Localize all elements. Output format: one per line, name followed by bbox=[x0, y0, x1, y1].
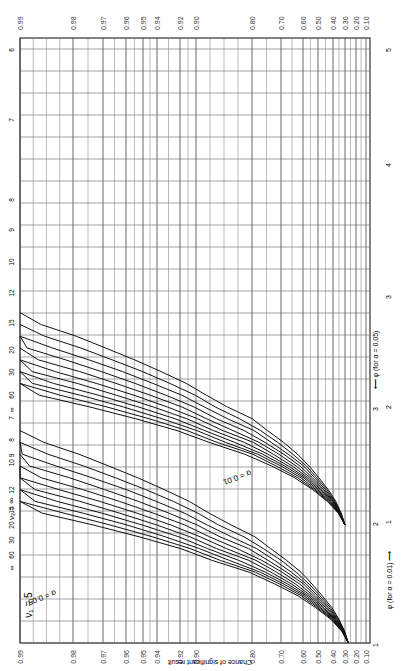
svg-text:0.10: 0.10 bbox=[363, 16, 370, 30]
curve-a001-nu2-15 bbox=[20, 478, 348, 643]
svg-text:4: 4 bbox=[385, 163, 392, 167]
svg-text:0.10: 0.10 bbox=[363, 650, 370, 664]
svg-text:0.60: 0.60 bbox=[300, 16, 307, 30]
svg-text:8: 8 bbox=[8, 198, 15, 202]
svg-text:6: 6 bbox=[8, 48, 15, 52]
svg-text:15: 15 bbox=[8, 506, 15, 514]
svg-text:0.99: 0.99 bbox=[17, 650, 24, 664]
alpha-001-label: α = 0.01 bbox=[221, 468, 252, 487]
svg-text:0.20: 0.20 bbox=[353, 16, 360, 30]
svg-text:0.40: 0.40 bbox=[330, 16, 337, 30]
curve-a001-nu2-7 bbox=[20, 442, 348, 643]
svg-text:20: 20 bbox=[8, 521, 15, 529]
svg-text:2: 2 bbox=[372, 522, 379, 526]
svg-text:0.90: 0.90 bbox=[193, 16, 200, 30]
svg-text:0.20: 0.20 bbox=[353, 650, 360, 664]
svg-text:0.92: 0.92 bbox=[177, 16, 184, 30]
svg-text:8: 8 bbox=[8, 438, 15, 442]
curve-a005-nu2-12 bbox=[20, 360, 345, 525]
svg-text:7: 7 bbox=[8, 118, 15, 122]
svg-text:12: 12 bbox=[8, 486, 15, 494]
curve-a001-nu2-60 bbox=[20, 501, 348, 643]
svg-text:0.97: 0.97 bbox=[100, 16, 107, 30]
curve-a005-nu2-8 bbox=[20, 336, 345, 525]
phi-alpha-001-label: φ (for α = 0.01) ⟶ bbox=[386, 551, 394, 610]
svg-text:0.70: 0.70 bbox=[278, 650, 285, 664]
chart-grid bbox=[20, 38, 370, 643]
svg-text:60: 60 bbox=[8, 551, 15, 559]
curve-a005-nu2-7 bbox=[20, 324, 345, 525]
svg-text:30: 30 bbox=[8, 368, 15, 376]
phi-alpha-005-label: ⟵ φ (for α = 0.05) bbox=[372, 331, 380, 390]
svg-text:0.80: 0.80 bbox=[249, 16, 256, 30]
svg-text:3: 3 bbox=[372, 407, 379, 411]
svg-text:0.96: 0.96 bbox=[123, 16, 130, 30]
svg-text:0.99: 0.99 bbox=[17, 16, 24, 30]
svg-text:5: 5 bbox=[385, 48, 392, 52]
svg-text:0.70: 0.70 bbox=[278, 16, 285, 30]
curve-a005-nu2-30 bbox=[20, 372, 345, 525]
svg-text:∞: ∞ bbox=[8, 565, 15, 570]
curve-a005-nu2-60 bbox=[20, 383, 345, 525]
svg-text:10: 10 bbox=[8, 258, 15, 266]
svg-text:0.98: 0.98 bbox=[70, 650, 77, 664]
svg-text:20: 20 bbox=[8, 346, 15, 354]
svg-text:0.94: 0.94 bbox=[154, 16, 161, 30]
svg-text:0.98: 0.98 bbox=[70, 16, 77, 30]
svg-text:9: 9 bbox=[8, 228, 15, 232]
svg-text:0.95: 0.95 bbox=[140, 650, 147, 664]
svg-text:1: 1 bbox=[385, 520, 392, 524]
curve-a005-nu2-∞ bbox=[20, 383, 345, 525]
chart-labels: 0.990.990.980.980.970.970.960.960.950.95… bbox=[7, 16, 394, 666]
svg-text:60: 60 bbox=[8, 391, 15, 399]
plot-frame bbox=[20, 38, 370, 643]
curve-a005-nu2-20 bbox=[20, 372, 345, 525]
curve-a001-nu2-12 bbox=[20, 466, 348, 643]
svg-text:1: 1 bbox=[372, 643, 379, 647]
svg-text:10 9: 10 9 bbox=[8, 453, 15, 466]
svg-text:0.96: 0.96 bbox=[123, 650, 130, 664]
svg-text:0.30: 0.30 bbox=[342, 650, 349, 664]
svg-text:0.94: 0.94 bbox=[154, 650, 161, 664]
curve-a005-nu2-9 bbox=[20, 336, 345, 525]
svg-text:12: 12 bbox=[8, 289, 15, 297]
svg-text:0.40: 0.40 bbox=[330, 650, 337, 664]
curve-a001-nu2-8 bbox=[20, 442, 348, 643]
svg-text:3: 3 bbox=[385, 295, 392, 299]
svg-text:7: 7 bbox=[8, 416, 15, 420]
svg-text:30: 30 bbox=[8, 536, 15, 544]
svg-text:0.30: 0.30 bbox=[342, 16, 349, 30]
alpha-005-label: α = 0.05 bbox=[26, 588, 57, 607]
svg-text:0.97: 0.97 bbox=[100, 650, 107, 664]
svg-text:∞: ∞ bbox=[8, 407, 15, 412]
curve-a001-nu2-9 bbox=[20, 454, 348, 643]
svg-text:0.50: 0.50 bbox=[315, 16, 322, 30]
svg-text:0.50: 0.50 bbox=[315, 650, 322, 664]
power-chart: 0.990.990.980.980.970.970.960.960.950.95… bbox=[0, 0, 408, 671]
curve-a005-nu2-15 bbox=[20, 360, 345, 525]
svg-text:2: 2 bbox=[385, 405, 392, 409]
svg-text:0.95: 0.95 bbox=[140, 16, 147, 30]
svg-text:0.60: 0.60 bbox=[300, 650, 307, 664]
curve-a001-nu2-∞ bbox=[20, 501, 348, 643]
svg-text:15: 15 bbox=[8, 319, 15, 327]
power-curves bbox=[20, 313, 348, 643]
y-axis-label: Chance of significant result bbox=[168, 658, 252, 666]
